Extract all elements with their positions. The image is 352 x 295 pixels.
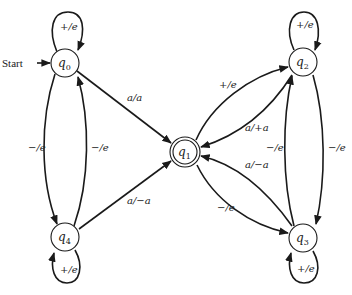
edge-label-q2-q2: +/e <box>296 19 314 30</box>
edge-label-q0-q4: −/e <box>28 142 46 153</box>
state-q2: q2 <box>289 48 317 76</box>
edge-label-q4-q4: +/e <box>60 264 78 275</box>
edge-q4-q1 <box>79 161 171 229</box>
state-q3: q3 <box>289 224 317 252</box>
start-label: Start <box>2 57 23 69</box>
edge-label-q4-q1: a/−a <box>127 195 151 206</box>
edge-label-q2-q3: −/e <box>328 142 346 153</box>
edge-q1-q2 <box>196 67 288 140</box>
edge-label-q1-q3: −/e <box>217 202 235 213</box>
edge-q0-q4 <box>44 74 57 224</box>
edge-label-q0-q1: a/a <box>127 92 142 103</box>
state-q1-accepting: q1 <box>170 137 200 167</box>
edge-label-q4-q0: −/e <box>91 142 109 153</box>
state-q4: q4 <box>51 223 79 251</box>
edge-q2-q2 <box>289 12 318 50</box>
edge-label-q3-q2: −/e <box>266 142 284 153</box>
edge-q0-q1 <box>77 71 171 143</box>
edge-q2-q3 <box>313 75 323 224</box>
edge-label-q1-q2: +/e <box>219 79 237 90</box>
edge-label-q3-q1: a/−a <box>245 159 269 170</box>
edge-label-q2-q1: a/+a <box>245 122 269 133</box>
edge-q3-q2 <box>285 76 294 226</box>
edge-q4-q0 <box>74 77 87 226</box>
state-q0: q0 <box>51 49 79 77</box>
edge-label-q3-q3: +/e <box>297 263 315 274</box>
edge-label-q0-q0: +/e <box>60 21 78 32</box>
state-diagram: Start +/e a/a −/e −/e +/e a/−a +/e a/+a … <box>0 0 352 295</box>
edge-q0-q0 <box>52 12 82 52</box>
